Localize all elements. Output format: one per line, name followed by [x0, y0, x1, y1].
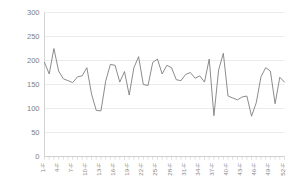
- y-axis-tick-label: 150: [27, 80, 40, 89]
- x-axis-tick-label: 37-F: [208, 163, 215, 176]
- x-axis-tick-label: 34-F: [194, 163, 201, 176]
- x-axis-tick-label: 28-F: [166, 163, 173, 176]
- x-axis-tick-label: 4-F: [53, 163, 60, 173]
- x-axis-tick-label: 1-F: [39, 163, 46, 173]
- y-axis-tick-labels: 050100150200250300: [27, 8, 40, 161]
- data-series-line: [45, 49, 285, 117]
- y-axis-tick-label: 300: [27, 8, 40, 17]
- x-axis-tick-label: 16-F: [109, 163, 116, 176]
- x-axis-tick-label: 19-F: [123, 163, 130, 176]
- y-axis-tick-label: 200: [27, 56, 40, 65]
- x-axis-tick-label: 13-F: [95, 163, 102, 176]
- data-series: [45, 49, 285, 117]
- x-axis-tick-label: 22-F: [137, 163, 144, 176]
- x-axis-tick-label: 25-F: [151, 163, 158, 176]
- x-axis-tick-label: 49-F: [264, 163, 271, 176]
- x-axis-tick-labels: 1-F4-F7-F10-F13-F16-F19-F22-F25-F28-F31-…: [39, 163, 286, 176]
- x-axis-tick-label: 52-F: [279, 163, 286, 176]
- y-axis-tick-label: 250: [27, 32, 40, 41]
- x-axis-tick-label: 7-F: [67, 163, 74, 173]
- y-axis-tick-label: 50: [31, 128, 39, 137]
- y-axis-tick-label: 100: [27, 104, 40, 113]
- x-axis-tick-label: 43-F: [236, 163, 243, 176]
- x-axis-tick-label: 40-F: [222, 163, 229, 176]
- y-axis-tick-label: 0: [35, 152, 39, 161]
- gridlines: [45, 13, 285, 157]
- chart-canvas: 050100150200250300 1-F4-F7-F10-F13-F16-F…: [0, 0, 307, 194]
- x-axis-tick-label: 46-F: [250, 163, 257, 176]
- x-axis-tick-label: 31-F: [180, 163, 187, 176]
- x-axis-tick-label: 10-F: [81, 163, 88, 176]
- x-axis-tickmarks: [45, 157, 285, 160]
- line-chart: 050100150200250300 1-F4-F7-F10-F13-F16-F…: [0, 0, 307, 194]
